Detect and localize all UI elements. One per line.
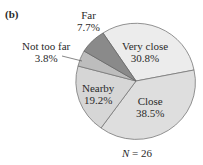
sample-size-label: N = 26 <box>122 147 152 159</box>
label-close: Close 38.5% <box>136 95 164 119</box>
label-far: Far 7.7% <box>77 9 100 33</box>
label-not-too-far: Not too far 3.8% <box>22 40 70 64</box>
label-nearby: Nearby 19.2% <box>82 82 114 106</box>
label-very-close: Very close 30.8% <box>122 40 168 64</box>
